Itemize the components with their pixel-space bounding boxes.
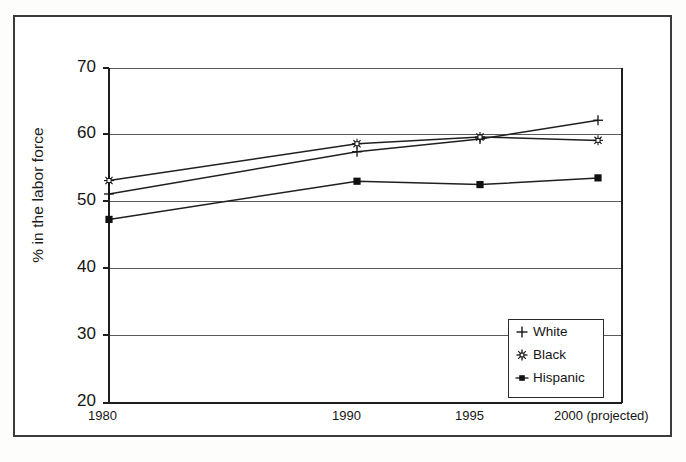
legend-item-hispanic: Hispanic	[509, 366, 603, 389]
legend-item-black: Black	[509, 343, 603, 366]
legend: White Black	[508, 319, 604, 398]
line-chart: % in the labor force 70 60 50 40 30 20	[0, 0, 686, 462]
x-tick-label-1980: 1980	[88, 408, 117, 423]
star-marker-icon	[514, 347, 530, 363]
legend-label-black: Black	[533, 347, 566, 362]
y-axis-ticks	[103, 68, 109, 403]
legend-label-white: White	[533, 324, 568, 339]
series-layer	[104, 115, 603, 223]
x-tick-label-1995: 1995	[455, 408, 484, 423]
square-marker-icon	[514, 370, 530, 386]
plus-marker-icon	[514, 324, 530, 340]
series-white	[104, 115, 603, 199]
legend-label-hispanic: Hispanic	[533, 370, 585, 385]
figure-canvas: % in the labor force 70 60 50 40 30 20	[0, 0, 686, 462]
series-black	[104, 132, 603, 186]
legend-item-white: White	[509, 320, 603, 343]
x-tick-label-2000: 2000 (projected)	[554, 408, 649, 423]
x-tick-label-1990: 1990	[332, 408, 361, 423]
gridlines	[109, 68, 622, 335]
